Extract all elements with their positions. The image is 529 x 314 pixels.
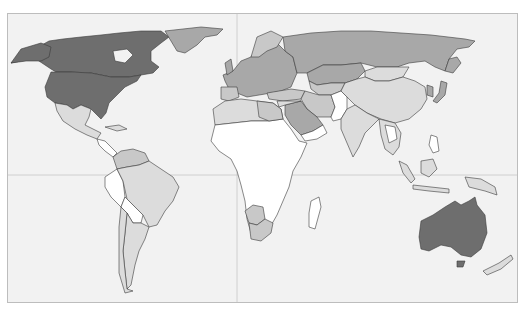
region-caribbean[interactable] <box>105 125 127 131</box>
region-greenland[interactable] <box>165 27 223 53</box>
region-indonesia-sumatra[interactable] <box>399 161 415 183</box>
region-australia[interactable] <box>419 197 487 257</box>
region-philippines[interactable] <box>429 135 439 153</box>
region-korea[interactable] <box>427 85 433 97</box>
region-new-zealand[interactable] <box>483 255 513 275</box>
region-borneo[interactable] <box>421 159 437 177</box>
region-madagascar[interactable] <box>309 197 321 229</box>
region-argentina[interactable] <box>123 213 149 289</box>
region-central-america[interactable] <box>97 139 117 157</box>
region-iberia[interactable] <box>221 87 239 101</box>
region-tasmania[interactable] <box>457 261 465 267</box>
region-new-guinea[interactable] <box>465 177 497 195</box>
region-japan[interactable] <box>433 81 447 103</box>
map-frame <box>7 13 518 303</box>
region-java-islands[interactable] <box>413 185 449 193</box>
world-map[interactable] <box>8 14 518 303</box>
